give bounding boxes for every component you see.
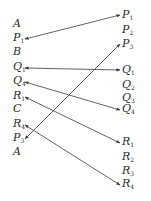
- arrow-left-Q4-to-right-Q4: [25, 82, 120, 110]
- label-letter: A: [13, 145, 21, 158]
- right-label-q4: Q4: [122, 103, 135, 118]
- left-label-q4: Q4: [13, 75, 26, 90]
- label-subscript: 3: [129, 43, 133, 50]
- label-letter: Q: [122, 63, 131, 76]
- label-subscript: 1: [21, 95, 25, 102]
- right-label-q1: Q1: [122, 64, 135, 79]
- label-letter: B: [13, 45, 21, 58]
- arrow-left-P1-to-right-P1: [25, 15, 120, 39]
- label-subscript: 2: [129, 29, 133, 36]
- label-subscript: 3: [20, 137, 24, 144]
- label-letter: Q: [13, 74, 22, 87]
- label-subscript: 3: [130, 170, 134, 177]
- label-subscript: 1: [130, 141, 134, 148]
- label-letter: C: [13, 102, 21, 115]
- label-subscript: 1: [20, 37, 24, 44]
- label-letter: A: [13, 17, 21, 30]
- label-subscript: 4: [131, 108, 135, 115]
- label-subscript: 1: [22, 66, 26, 73]
- left-label-c: C: [13, 103, 21, 115]
- left-label-b: B: [13, 46, 21, 58]
- left-label-a: A: [13, 146, 21, 158]
- label-letter: Q: [122, 102, 131, 115]
- label-subscript: 4: [130, 183, 134, 190]
- mapping-diagram: AP1BQ1Q4R1CR4P3A P1P2P3Q1Q2Q3Q4R1R2R3R4: [0, 0, 151, 201]
- label-subscript: 4: [22, 80, 26, 87]
- right-label-p3: P3: [122, 38, 133, 53]
- label-subscript: 2: [131, 84, 135, 91]
- label-subscript: 1: [131, 69, 135, 76]
- arrow-left-Q1-to-right-Q1: [25, 68, 120, 70]
- right-label-r1: R1: [122, 136, 134, 151]
- label-letter: Q: [13, 60, 22, 73]
- arrow-left-R1-to-right-R1: [25, 97, 120, 143]
- right-label-r4: R4: [122, 178, 134, 193]
- left-label-a: A: [13, 18, 21, 30]
- arrow-left-P3-to-right-P3: [25, 44, 120, 139]
- right-label-p1: P1: [122, 9, 133, 24]
- label-subscript: 1: [129, 14, 133, 21]
- label-letter: Q: [122, 78, 131, 91]
- arrow-left-R4-to-right-R4: [25, 125, 120, 185]
- label-subscript: 2: [130, 156, 134, 163]
- label-subscript: 4: [21, 123, 25, 130]
